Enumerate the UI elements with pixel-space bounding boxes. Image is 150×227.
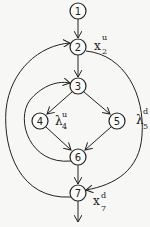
svg-text:5: 5 (114, 116, 120, 127)
svg-text:7: 7 (75, 188, 81, 199)
node-4: 4 (32, 113, 48, 129)
annotation-x4u: λ u 4 (55, 110, 67, 131)
node-2: 2 (70, 39, 86, 55)
svg-text:d: d (101, 191, 106, 200)
svg-text:x: x (93, 194, 100, 208)
svg-text:x: x (94, 39, 101, 53)
svg-text:2: 2 (102, 47, 107, 56)
annotation-x2u: x u 2 (94, 33, 107, 56)
node-6: 6 (70, 149, 86, 165)
node-3: 3 (70, 78, 86, 94)
svg-text:u: u (102, 33, 107, 42)
svg-text:5: 5 (143, 122, 148, 131)
flow-graph: 1 2 3 4 5 6 7 x u 2 λ u 4 λ d 5 x d 7 (0, 0, 150, 227)
svg-text:3: 3 (75, 81, 81, 92)
svg-text:6: 6 (75, 152, 81, 163)
edge-3-5 (84, 92, 110, 114)
annotation-x7d: x d 7 (93, 191, 106, 213)
node-5: 5 (109, 113, 125, 129)
edge-4-6 (46, 127, 71, 150)
svg-text:u: u (62, 110, 67, 119)
svg-text:2: 2 (75, 42, 81, 53)
svg-text:4: 4 (37, 116, 43, 127)
edge-5-6 (85, 127, 111, 150)
node-7: 7 (70, 185, 86, 201)
svg-text:4: 4 (62, 122, 67, 131)
svg-text:1: 1 (75, 6, 81, 17)
annotation-x5d: λ d 5 (136, 107, 148, 131)
svg-text:d: d (143, 107, 148, 116)
edge-3-4 (47, 92, 72, 114)
svg-text:7: 7 (101, 204, 106, 213)
node-1: 1 (70, 3, 86, 19)
